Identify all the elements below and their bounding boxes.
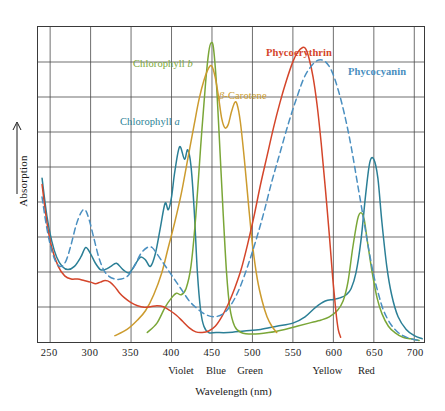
series-label-phycoerythrin: Phycoerythrin bbox=[266, 47, 332, 58]
x-tick-label-700: 700 bbox=[395, 347, 435, 358]
x-tick-label-300: 300 bbox=[70, 347, 110, 358]
x-tick-label-600: 600 bbox=[314, 347, 354, 358]
curve-chlorophyll-a bbox=[42, 146, 422, 338]
x-tick-label-650: 650 bbox=[355, 347, 395, 358]
absorption-spectra-figure: Absorption 25030035040045050055060065070… bbox=[0, 0, 445, 411]
series-label-beta-carotene: β-Carotene bbox=[219, 90, 267, 101]
y-axis-title: Absorption bbox=[17, 111, 29, 251]
series-label-phycocyanin: Phycocyanin bbox=[348, 66, 406, 77]
x-axis-title: Wavelength (nm) bbox=[0, 385, 445, 397]
x-tick-label-250: 250 bbox=[29, 347, 69, 358]
x-tick-label-500: 500 bbox=[233, 347, 273, 358]
color-band-label-red: Red bbox=[340, 365, 392, 376]
curve-phycoerythrin bbox=[42, 47, 341, 337]
x-tick-label-400: 400 bbox=[151, 347, 191, 358]
x-tick-label-350: 350 bbox=[111, 347, 151, 358]
series-label-chlorophyll-a-text: Chlorophyll bbox=[120, 116, 175, 127]
series-label-chlorophyll-a: Chlorophyll a bbox=[120, 116, 180, 127]
color-band-label-green: Green bbox=[224, 365, 276, 376]
series-label-chlorophyll-b-text: Chlorophyll bbox=[133, 58, 188, 69]
x-tick-label-450: 450 bbox=[192, 347, 232, 358]
curve-carotene bbox=[115, 66, 277, 336]
x-tick-label-550: 550 bbox=[273, 347, 313, 358]
series-label-beta-carotene-text: -Carotene bbox=[224, 90, 266, 101]
series-label-chlorophyll-a-italic: a bbox=[175, 116, 180, 127]
series-label-chlorophyll-b: Chlorophyll b bbox=[133, 58, 193, 69]
series-label-chlorophyll-b-italic: b bbox=[188, 58, 193, 69]
